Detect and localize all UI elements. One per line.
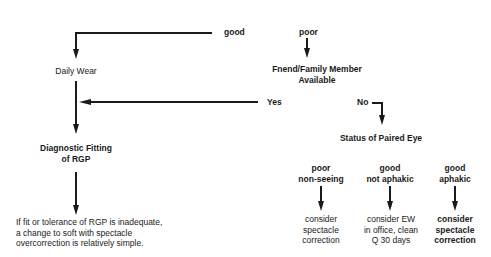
arrow-yes-to-left bbox=[79, 99, 91, 105]
arrow-to-rgp-note bbox=[73, 205, 79, 215]
good-branch-drop-line bbox=[75, 32, 77, 50]
label-yes: Yes bbox=[267, 97, 282, 108]
node-friend-family-available: Fnend/Family Member Available bbox=[272, 64, 362, 85]
option-3-arrow bbox=[452, 201, 458, 211]
option-1-arrow bbox=[318, 201, 324, 211]
daily-wear-down-line bbox=[75, 81, 77, 125]
option-condition-poor-non-seeing: poor non-seeing bbox=[298, 163, 343, 184]
label-no: No bbox=[357, 97, 368, 108]
option-2-arrow bbox=[387, 201, 393, 211]
option-action-spectacle-1: consider spectacle correction bbox=[302, 214, 339, 246]
arrow-to-friend-family bbox=[304, 48, 310, 58]
yes-branch-line bbox=[86, 101, 258, 103]
option-action-spectacle-2: consider spectacle correction bbox=[434, 214, 476, 246]
option-condition-good-not-aphakic: good not aphakic bbox=[366, 163, 413, 184]
arrow-to-diagnostic-fitting bbox=[73, 124, 79, 134]
option-1-line bbox=[320, 186, 322, 202]
no-branch-horizontal-line bbox=[372, 102, 381, 104]
option-condition-good-aphakic: good aphakic bbox=[439, 163, 471, 184]
node-status-paired-eye: Status of Paired Eye bbox=[340, 133, 422, 144]
option-action-extended-wear: consider EW in office, clean Q 30 days bbox=[364, 214, 418, 246]
diagnostic-fitting-down-line bbox=[75, 172, 77, 206]
node-daily-wear: Daily Wear bbox=[55, 66, 96, 77]
option-3-line bbox=[454, 186, 456, 202]
arrow-to-status-paired-eye bbox=[379, 115, 385, 125]
label-good: good bbox=[224, 27, 245, 38]
arrow-to-daily-wear bbox=[73, 49, 79, 59]
option-2-line bbox=[389, 186, 391, 202]
label-poor: poor bbox=[299, 27, 318, 38]
node-rgp-note: If fit or tolerance of RGP is inadequate… bbox=[16, 217, 162, 249]
node-diagnostic-fitting-rgp: Diagnostic Fitting of RGP bbox=[40, 143, 112, 164]
no-branch-drop-line bbox=[381, 102, 383, 116]
good-branch-line bbox=[75, 32, 212, 34]
